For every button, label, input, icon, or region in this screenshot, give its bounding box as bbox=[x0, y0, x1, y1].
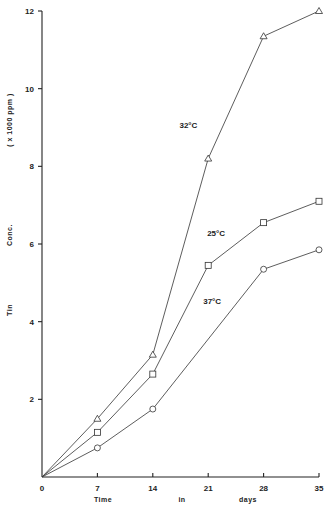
y-tick-label: 2 bbox=[30, 395, 35, 404]
x-axis-title: days bbox=[239, 496, 257, 504]
circle-marker bbox=[94, 445, 100, 451]
square-marker bbox=[205, 262, 211, 268]
series-label: 32°C bbox=[179, 121, 197, 130]
series-circle bbox=[42, 247, 322, 477]
x-tick-label: 0 bbox=[40, 484, 45, 493]
y-tick-label: 12 bbox=[25, 7, 34, 16]
y-tick-label: 6 bbox=[30, 240, 35, 249]
y-tick-label: 4 bbox=[30, 318, 35, 327]
x-axis-title: in bbox=[178, 496, 185, 503]
x-tick-label: 28 bbox=[259, 484, 268, 493]
series-label: 25°C bbox=[207, 229, 225, 238]
circle-marker bbox=[150, 406, 156, 412]
triangle-marker bbox=[260, 33, 267, 39]
square-marker bbox=[150, 371, 156, 377]
circle-marker bbox=[316, 247, 322, 253]
x-tick-label: 14 bbox=[148, 484, 157, 493]
line-chart: 246810120714212835 TimeindaysTinConc.( x… bbox=[0, 0, 330, 512]
series-line bbox=[42, 250, 319, 477]
circle-marker bbox=[261, 266, 267, 272]
y-tick-label: 10 bbox=[25, 85, 34, 94]
x-axis-title: Time bbox=[94, 496, 112, 503]
labels-group: TimeindaysTinConc.( x 1000 ppm )32°C25°C… bbox=[6, 93, 257, 504]
square-marker bbox=[316, 198, 322, 204]
series-group bbox=[42, 8, 323, 478]
axes: 246810120714212835 bbox=[25, 7, 324, 493]
y-axis-title: Conc. bbox=[6, 224, 13, 246]
series-triangle bbox=[42, 8, 323, 478]
series-square bbox=[42, 198, 322, 477]
x-tick-label: 7 bbox=[95, 484, 100, 493]
series-line bbox=[42, 201, 319, 477]
triangle-marker bbox=[316, 8, 323, 14]
y-axis-title: Tin bbox=[6, 304, 13, 316]
square-marker bbox=[261, 220, 267, 226]
triangle-marker bbox=[149, 351, 156, 357]
x-tick-label: 35 bbox=[315, 484, 324, 493]
y-axis-title: ( x 1000 ppm ) bbox=[6, 93, 14, 147]
square-marker bbox=[94, 429, 100, 435]
y-tick-label: 8 bbox=[30, 162, 35, 171]
series-label: 37°C bbox=[203, 297, 221, 306]
triangle-marker bbox=[205, 155, 212, 161]
x-tick-label: 21 bbox=[204, 484, 213, 493]
series-line bbox=[42, 11, 319, 477]
